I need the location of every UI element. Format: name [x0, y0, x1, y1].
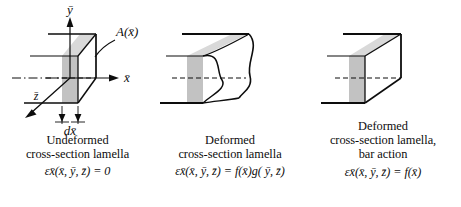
- dim-arrow-right: [75, 114, 82, 122]
- undeformed-box-diagram: ȳ x̄ z̄ A(x̄) dx̄: [0, 0, 155, 135]
- panel-undeformed: ȳ x̄ z̄ A(x̄) dx̄ Undeformed cross-sect…: [0, 0, 155, 207]
- caption-bar-action: Deformed cross-section lamella, bar acti…: [305, 119, 461, 179]
- equation-text: εx̄(x̄, ȳ, z̄) = 0: [45, 164, 111, 178]
- caption-line: cross-section lamella: [0, 147, 155, 161]
- caption-deformed: Deformed cross-section lamella εx̄(x̄, y…: [150, 133, 310, 179]
- caption-line: bar action: [305, 147, 461, 161]
- equation-text: εx̄(x̄, ȳ, z̄) = f(x̄)g( ȳ, z̄): [175, 164, 285, 178]
- warped-box-diagram: [150, 0, 310, 135]
- axis-y-label: ȳ: [65, 2, 73, 17]
- caption-line: cross-section lamella,: [305, 133, 461, 147]
- lamella-deformation-figure: ȳ x̄ z̄ A(x̄) dx̄ Undeformed cross-sect…: [0, 0, 461, 207]
- lamella-top-face: [62, 34, 96, 56]
- lamella-front-face: [349, 56, 365, 103]
- caption-line: Deformed: [305, 119, 461, 133]
- caption-line: Undeformed: [0, 133, 155, 147]
- bar-action-box-diagram: [305, 0, 461, 135]
- caption-undeformed: Undeformed cross-section lamella εx̄(x̄,…: [0, 133, 155, 179]
- lamella-front-face: [187, 56, 203, 103]
- lamella-top-face: [187, 34, 248, 56]
- axis-y-arrowhead: [67, 17, 74, 27]
- box-edge-diagonal-bottom: [365, 78, 401, 103]
- strain-equation: εx̄(x̄, ȳ, z̄) = f(x̄)g( ȳ, z̄): [150, 164, 310, 178]
- box-edge-diagonal-bottom: [78, 78, 96, 103]
- equation-text: εx̄(x̄, ȳ, z̄) = f(x̄): [345, 165, 421, 179]
- strain-equation: εx̄(x̄, ȳ, z̄) = 0: [0, 164, 155, 178]
- dim-arrow-left: [59, 114, 66, 122]
- axis-x-label: x̄: [123, 70, 130, 85]
- strain-equation: εx̄(x̄, ȳ, z̄) = f(x̄): [305, 165, 461, 179]
- caption-line: Deformed: [150, 133, 310, 147]
- panel-deformed-warped: Deformed cross-section lamella εx̄(x̄, y…: [150, 0, 310, 207]
- axis-z-arrowhead: [25, 109, 37, 118]
- caption-line: cross-section lamella: [150, 147, 310, 161]
- area-label: A(x̄): [115, 24, 138, 39]
- warped-edge-front: [203, 55, 223, 103]
- lamella-top-face: [349, 34, 401, 56]
- warped-edge-back: [239, 34, 253, 98]
- axis-x-arrowhead: [109, 75, 119, 82]
- area-leader-line: [95, 40, 115, 57]
- panel-deformed-bar-action: Deformed cross-section lamella, bar acti…: [305, 0, 461, 207]
- axis-z-label: z̄: [33, 89, 39, 103]
